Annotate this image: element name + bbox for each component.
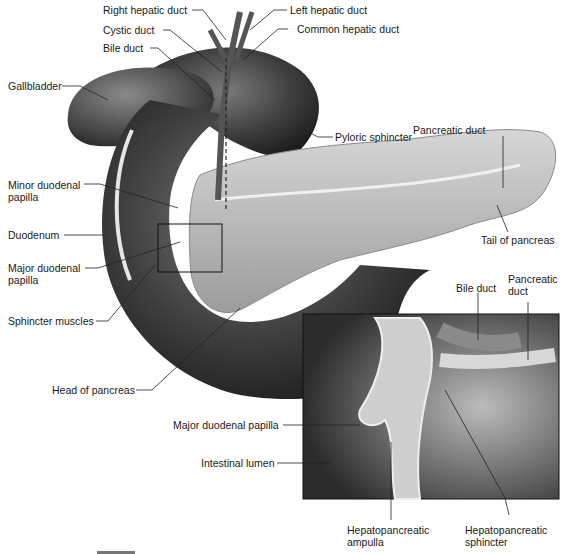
- label-left-hepatic-duct: Left hepatic duct: [290, 4, 367, 16]
- label-duodenum: Duodenum: [8, 229, 59, 241]
- label-bile-duct: Bile duct: [103, 42, 143, 54]
- label-sphincter-muscles: Sphincter muscles: [8, 315, 94, 327]
- inset-label-pancreatic-duct: Pancreatic duct: [508, 273, 558, 297]
- label-minor-duodenal-papilla-line2: papilla: [8, 191, 38, 203]
- label-cystic-duct: Cystic duct: [103, 24, 154, 36]
- label-major-duodenal-papilla: Major duodenal papilla: [8, 262, 80, 286]
- inset-label-pancreatic-duct-line2: duct: [508, 285, 528, 297]
- inset-label-hepatopancreatic-ampulla-line2: ampulla: [347, 536, 384, 548]
- label-gallbladder: Gallbladder: [8, 80, 62, 92]
- inset-label-hepatopancreatic-sphincter-line2: sphincter: [465, 536, 508, 548]
- inset-label-pancreatic-duct-line1: Pancreatic: [508, 273, 558, 285]
- inset-label-major-duodenal-papilla: Major duodenal papilla: [173, 419, 279, 431]
- illustration: [0, 0, 563, 554]
- label-major-duodenal-papilla-line2: papilla: [8, 274, 38, 286]
- label-pancreatic-duct: Pancreatic duct: [413, 124, 485, 136]
- label-head-of-pancreas: Head of pancreas: [52, 384, 135, 396]
- label-pyloric-sphincter: Pyloric sphincter: [335, 131, 412, 143]
- label-common-hepatic-duct: Common hepatic duct: [297, 23, 399, 35]
- inset-label-hepatopancreatic-sphincter: Hepatopancreatic sphincter: [465, 524, 547, 548]
- inset-label-hepatopancreatic-ampulla: Hepatopancreatic ampulla: [347, 524, 429, 548]
- label-tail-of-pancreas: Tail of pancreas: [481, 234, 555, 246]
- label-minor-duodenal-papilla-line1: Minor duodenal: [8, 179, 80, 191]
- label-minor-duodenal-papilla: Minor duodenal papilla: [8, 179, 80, 203]
- label-major-duodenal-papilla-line1: Major duodenal: [8, 262, 80, 274]
- label-right-hepatic-duct: Right hepatic duct: [103, 4, 187, 16]
- inset-label-hepatopancreatic-ampulla-line1: Hepatopancreatic: [347, 524, 429, 536]
- inset-label-bile-duct: Bile duct: [456, 282, 496, 294]
- inset-detail: [303, 314, 559, 499]
- inset-label-hepatopancreatic-sphincter-line1: Hepatopancreatic: [465, 524, 547, 536]
- anatomy-figure: Right hepatic duct Left hepatic duct Cys…: [0, 0, 563, 554]
- inset-label-intestinal-lumen: Intestinal lumen: [201, 457, 275, 469]
